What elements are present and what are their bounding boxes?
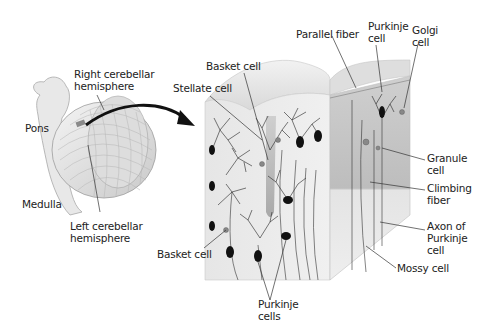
label-stellate-cell: Stellate cell xyxy=(173,82,232,94)
label-axon-of-purkinje-cell: Axon of Purkinje cell xyxy=(427,220,468,256)
label-purkinje-cells-bottom: Purkinje cells xyxy=(258,298,299,322)
label-golgi-cell: Golgi cell xyxy=(412,24,438,48)
label-medulla: Medulla xyxy=(22,198,62,210)
label-granule-cell: Granule cell xyxy=(427,152,467,176)
cortex-block xyxy=(205,60,410,280)
arrow-head-icon xyxy=(177,110,195,126)
label-right-cerebellar-hemisphere: Right cerebellar hemisphere xyxy=(74,68,154,92)
side-face xyxy=(330,76,410,280)
label-mossy-cell: Mossy cell xyxy=(397,262,449,274)
cerebellum-diagram xyxy=(0,0,485,327)
label-parallel-fiber: Parallel fiber xyxy=(296,28,359,40)
label-left-cerebellar-hemisphere: Left cerebellar hemisphere xyxy=(70,220,143,244)
label-basket-cell-top: Basket cell xyxy=(206,60,261,72)
label-purkinje-cell-top: Purkinje cell xyxy=(368,20,409,44)
label-basket-cell-bottom: Basket cell xyxy=(157,248,212,260)
label-pons: Pons xyxy=(25,122,49,134)
cerebellum-illustration xyxy=(34,77,195,215)
label-climbing-fiber: Climbing fiber xyxy=(427,182,472,206)
